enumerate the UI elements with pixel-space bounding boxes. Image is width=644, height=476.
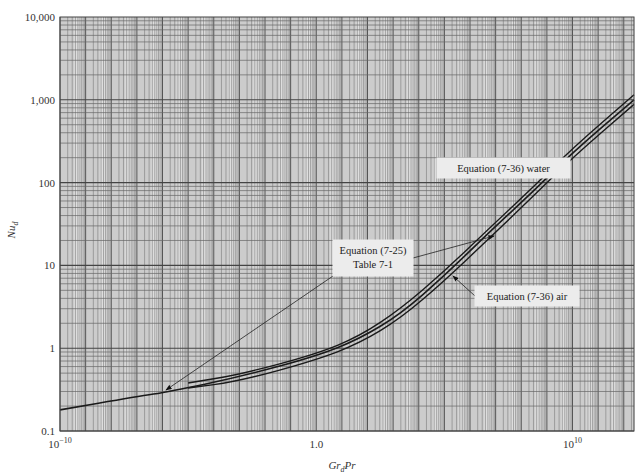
y-tick-label: 100 <box>39 177 56 189</box>
callout-label: Table 7-1 <box>353 259 393 270</box>
callout-label: Equation (7-36) air <box>487 291 568 303</box>
plot-area <box>60 17 635 431</box>
y-tick-label: 10 <box>44 259 56 271</box>
callout-label: Equation (7-36) water <box>457 163 550 175</box>
y-tick-label: 1 <box>50 342 56 354</box>
x-tick-label: 1.0 <box>309 438 323 450</box>
y-tick-label: 1,000 <box>30 94 55 106</box>
x-tick-label: 1010 <box>563 436 582 450</box>
callout-label: Equation (7-25) <box>340 245 407 257</box>
y-tick-label: 0.1 <box>41 425 55 437</box>
y-axis-label: Nud <box>5 221 20 240</box>
y-tick-label: 10,000 <box>25 11 56 23</box>
x-tick-label: 10−10 <box>48 436 72 450</box>
x-axis-label: GrdPr <box>328 459 356 474</box>
chart: 0.11101001,00010,00010−101.01010 Equatio… <box>0 0 644 476</box>
